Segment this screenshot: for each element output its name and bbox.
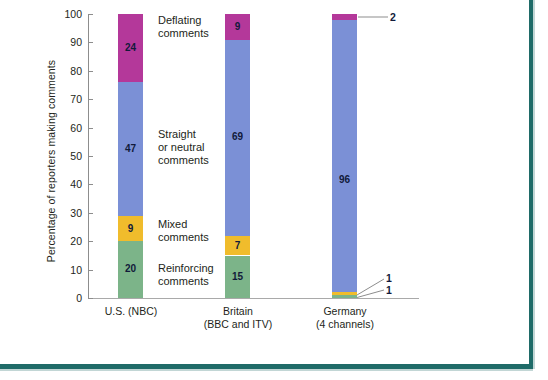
legend-mixed: Mixed comments [158, 218, 209, 244]
x-label-germany-line2: (4 channels) [284, 318, 406, 331]
x-label-germany-line1: Germany [284, 305, 406, 318]
legend-mixed-line1: Mixed [158, 218, 209, 231]
legend-straight-line2: or neutral [158, 141, 209, 154]
legend-reinforcing-line2: comments [158, 275, 214, 288]
x-label-us-line1: U.S. (NBC) [70, 305, 192, 318]
x-label-us: U.S. (NBC) [70, 305, 192, 318]
x-label-britain-line1: Britain [177, 305, 299, 318]
legend-mixed-line2: comments [158, 231, 209, 244]
callout-germany-mixed: 1 [386, 273, 392, 284]
legend-straight-line1: Straight [158, 128, 209, 141]
legend-reinforcing: Reinforcing comments [158, 262, 214, 288]
legend-straight: Straight or neutral comments [158, 128, 209, 167]
callout-germany-deflating: 2 [390, 12, 396, 23]
x-label-britain: Britain (BBC and ITV) [177, 305, 299, 331]
stacked-bar-chart: Percentage of reporters making comments … [0, 0, 548, 380]
legend-reinforcing-line1: Reinforcing [158, 262, 214, 275]
legend-deflating: Deflating comments [158, 14, 209, 40]
legend-deflating-line2: comments [158, 27, 209, 40]
callout-germany-reinforcing: 1 [386, 285, 392, 296]
x-label-britain-line2: (BBC and ITV) [177, 318, 299, 331]
legend-deflating-line1: Deflating [158, 14, 209, 27]
legend-straight-line3: comments [158, 154, 209, 167]
x-label-germany: Germany (4 channels) [284, 305, 406, 331]
